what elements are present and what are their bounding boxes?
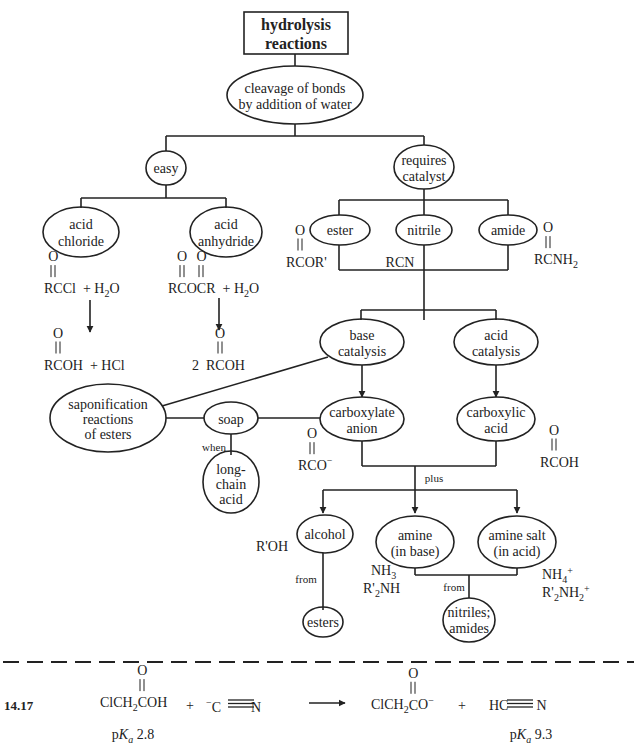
formula-rcoh-hcl: ROCOH + HCl — [44, 357, 125, 374]
node-base-catalysis-l2: catalysis — [338, 343, 386, 360]
node-requires-l1: requires — [401, 152, 446, 169]
problem-cyanide: −CN — [206, 694, 261, 716]
formula-2-rcoh: 2 ROCOH — [192, 357, 245, 374]
node-amine-salt-l2: (in acid) — [493, 543, 540, 560]
formula-rco-minus: ROCO− — [298, 452, 332, 474]
node-amine-base-l2: (in base) — [391, 543, 440, 560]
edge-label-plus: plus — [425, 470, 443, 487]
node-amide: amide — [491, 222, 525, 239]
node-ester: ester — [327, 222, 353, 239]
problem-plus-1: + — [186, 697, 194, 714]
node-acid-anhydride-l2: anhydride — [198, 233, 254, 250]
node-acid-chloride-l1: acid — [69, 216, 92, 233]
formula-rcocr: ROCOOCR + H2O — [168, 280, 259, 302]
formula-r2nh2: R'2NH2+ — [542, 580, 590, 606]
node-acid-catalysis-l2: catalysis — [472, 343, 520, 360]
node-acid-anhydride-l1: acid — [214, 216, 237, 233]
node-cleavage-l1: cleavage of bonds — [244, 80, 345, 97]
node-saponification-l3: of esters — [84, 426, 131, 443]
node-easy: easy — [154, 160, 179, 177]
node-carboxylate-l1: carboxylate — [329, 404, 394, 421]
diagram-lines — [0, 0, 637, 755]
problem-number: 14.17 — [4, 697, 33, 714]
formula-rcoh: ROCOH — [540, 454, 579, 471]
problem-pka-1: pKa 2.8 — [112, 726, 154, 748]
problem-reactant-1: ClCH2OCOH — [100, 694, 167, 716]
node-carboxylic-l1: carboxylic — [466, 404, 525, 421]
problem-pka-2: pKa 9.3 — [510, 726, 552, 748]
node-requires-l2: catalyst — [403, 168, 446, 185]
node-soap: soap — [218, 411, 244, 428]
edge-label-from-esters: from — [295, 571, 316, 588]
edge-label-from-nitriles: from — [443, 579, 464, 596]
formula-rcnh2: ROCNH2 — [534, 251, 578, 273]
node-amine-salt-l1: amine salt — [488, 527, 545, 544]
hydrolysis-diagram-page: hydrolysis reactions cleavage of bonds b… — [0, 0, 637, 755]
node-nitriles-amides-l1: nitriles; — [448, 604, 491, 621]
problem-hcn: HCN — [489, 697, 547, 714]
node-acid-chloride-l2: chloride — [58, 233, 104, 250]
node-base-catalysis-l1: base — [350, 327, 375, 344]
node-esters: esters — [307, 614, 339, 631]
node-cleavage-l2: by addition of water — [238, 96, 351, 113]
node-nitrile: nitrile — [407, 222, 440, 239]
formula-rcn: RCN — [386, 254, 415, 271]
node-acid-catalysis-l1: acid — [484, 327, 507, 344]
problem-product-1: ClCH2OCO− — [371, 692, 434, 718]
formula-rccl: ORCRCClCl + H2O — [44, 280, 120, 302]
node-amine-base-l1: amine — [398, 527, 432, 544]
edge-label-when: when — [202, 439, 226, 456]
formula-roh: R'OH — [256, 538, 288, 555]
title-line-2: reactions — [265, 34, 327, 53]
formula-r2nh: R'2NH — [363, 580, 400, 602]
node-carboxylate-l2: anion — [346, 420, 377, 437]
problem-plus-2: + — [458, 697, 466, 714]
node-long-chain-l3: acid — [219, 491, 242, 508]
node-nitriles-amides-l2: amides — [449, 620, 489, 637]
formula-rcor-prime: ROCOR' — [286, 254, 327, 271]
node-alcohol: alcohol — [304, 526, 345, 543]
node-carboxylic-l2: acid — [484, 420, 507, 437]
title-line-1: hydrolysis — [261, 15, 331, 34]
